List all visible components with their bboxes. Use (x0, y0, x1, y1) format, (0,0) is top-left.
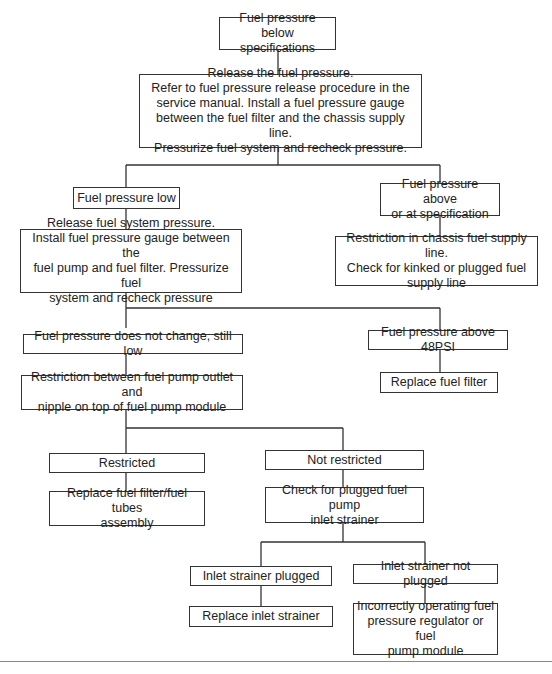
node-fuel-pressure-above-spec: Fuel pressure above or at specification (380, 183, 500, 216)
bottom-rule (0, 661, 552, 662)
node-replace-inlet-strainer: Replace inlet strainer (189, 606, 333, 627)
node-pressure-no-change: Fuel pressure does not change, still low (23, 334, 243, 354)
node-pump-outlet-restriction: Restriction between fuel pump outlet and… (21, 375, 243, 410)
node-pressure-below-spec: Fuel pressure below specifications (219, 17, 336, 50)
node-replace-fuel-filter: Replace fuel filter (380, 372, 498, 393)
node-regulator-or-pump-module: Incorrectly operating fuel pressure regu… (353, 603, 498, 655)
node-fuel-pressure-low: Fuel pressure low (73, 187, 180, 209)
node-release-fuel-pressure: Release the fuel pressure. Refer to fuel… (139, 74, 422, 148)
node-inlet-strainer-not-plugged: Inlet strainer not plugged (353, 564, 498, 584)
node-pressure-above-48psi: Fuel pressure above 48PSI (368, 330, 508, 350)
node-chassis-line-restriction: Restriction in chassis fuel supply line.… (335, 236, 538, 286)
node-inlet-strainer-plugged: Inlet strainer plugged (190, 566, 332, 586)
node-not-restricted: Not restricted (265, 450, 424, 470)
node-replace-filter-tubes: Replace fuel filter/fuel tubes assembly (49, 491, 205, 526)
node-restricted: Restricted (49, 453, 205, 473)
node-check-inlet-strainer: Check for plugged fuel pump inlet strain… (265, 487, 424, 523)
node-release-system-pressure: Release fuel system pressure. Install fu… (20, 229, 242, 293)
